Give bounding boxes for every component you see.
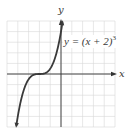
x-axis-arrow-icon: [111, 72, 117, 76]
equation-exponent: 3: [112, 34, 116, 42]
equation-text: y = (x + 2): [63, 35, 113, 48]
equation-label: y = (x + 2)3: [63, 34, 116, 48]
function-graph: y = (x + 2)3 y x: [0, 0, 130, 132]
x-axis-label: x: [119, 68, 125, 79]
y-axis-label: y: [57, 4, 64, 15]
